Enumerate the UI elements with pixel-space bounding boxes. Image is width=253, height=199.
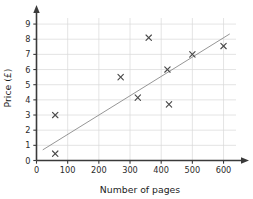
x-tick-label: 300: [122, 165, 138, 175]
x-tick-labels: 0100200300400500600: [34, 165, 231, 175]
y-tick-labels: 0123456789: [25, 19, 30, 165]
x-axis-title: Number of pages: [100, 184, 180, 195]
axes: [33, 5, 249, 164]
x-tick-label: 0: [34, 165, 39, 175]
x-tick-label: 200: [91, 165, 107, 175]
y-tick-label: 2: [25, 125, 30, 135]
x-tick-label: 100: [60, 165, 76, 175]
y-tick-label: 4: [25, 95, 30, 105]
data-point-marker: [166, 102, 171, 107]
data-point-marker: [118, 74, 123, 79]
y-tick-label: 3: [25, 110, 30, 120]
y-tick-label: 6: [25, 65, 30, 75]
x-axis-arrowhead: [241, 157, 249, 163]
y-tick-label: 7: [25, 49, 30, 59]
x-tick-label: 500: [185, 165, 201, 175]
data-point-marker: [146, 35, 151, 40]
tick-marks: [33, 24, 223, 164]
data-point-marker: [135, 95, 140, 100]
x-tick-label: 400: [153, 165, 169, 175]
data-point-marker: [53, 151, 58, 156]
data-points: [53, 35, 227, 156]
trend-line-group: [43, 34, 230, 150]
y-axis-arrowhead: [33, 5, 39, 13]
line-of-best-fit: [43, 34, 230, 150]
grid-lines: [37, 18, 237, 161]
y-tick-label: 5: [25, 80, 30, 90]
y-tick-label: 9: [25, 19, 30, 29]
y-tick-label: 0: [25, 156, 30, 166]
y-tick-label: 1: [25, 140, 30, 150]
scatter-chart: 0100200300400500600 0123456789 Number of…: [0, 0, 253, 199]
x-tick-label: 600: [216, 165, 232, 175]
y-tick-label: 8: [25, 34, 30, 44]
chart-canvas: 0100200300400500600 0123456789 Number of…: [0, 0, 253, 199]
y-axis-title: Price (£): [2, 69, 13, 108]
